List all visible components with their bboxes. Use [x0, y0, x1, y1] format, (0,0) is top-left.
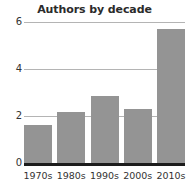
- y-tick-label-4: 4: [6, 64, 22, 74]
- bar-series: [24, 22, 185, 163]
- y-tick-label-2: 2: [6, 111, 22, 121]
- bar-chart: Authors by decade 6 4 2 0 1970s 1980s 19…: [0, 0, 189, 191]
- x-tick-label-2010s: 2010s: [155, 170, 187, 181]
- bar-1980s[interactable]: [57, 112, 85, 163]
- bar-2000s[interactable]: [124, 109, 152, 163]
- x-tick-label-2000s: 2000s: [122, 170, 154, 181]
- bar-slot-1990s: [91, 22, 119, 163]
- x-tick-label-1970s: 1970s: [22, 170, 54, 181]
- x-tick-label-1980s: 1980s: [55, 170, 87, 181]
- y-axis: 6 4 2 0: [0, 0, 22, 191]
- bar-1970s[interactable]: [24, 125, 52, 163]
- bar-slot-2010s: [157, 22, 185, 163]
- bar-2010s[interactable]: [157, 29, 185, 163]
- x-axis-line: [24, 163, 185, 166]
- y-tick-label-6: 6: [6, 17, 22, 27]
- y-tick-label-0: 0: [6, 158, 22, 168]
- x-tick-label-1990s: 1990s: [89, 170, 121, 181]
- chart-title: Authors by decade: [0, 3, 189, 16]
- x-axis: 1970s 1980s 1990s 2000s 2010s: [24, 170, 185, 181]
- bar-slot-1980s: [57, 22, 85, 163]
- bar-slot-1970s: [24, 22, 52, 163]
- bar-slot-2000s: [124, 22, 152, 163]
- bar-1990s[interactable]: [91, 96, 119, 163]
